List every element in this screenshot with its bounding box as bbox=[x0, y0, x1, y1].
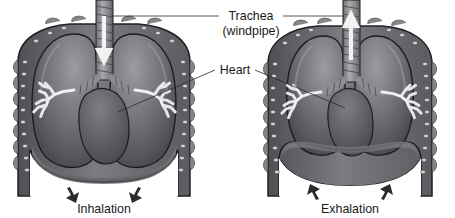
trachea-label: Trachea bbox=[229, 9, 274, 23]
inhalation-figure: Inhalation bbox=[14, 0, 195, 216]
illustration-canvas: Inhalation bbox=[0, 0, 455, 218]
windpipe-label: (windpipe) bbox=[222, 24, 279, 38]
heart-label: Heart bbox=[220, 63, 251, 77]
respiration-diagram: Inhalation bbox=[0, 0, 455, 218]
exhalation-figure: Exhalation bbox=[264, 0, 437, 216]
inhalation-label: Inhalation bbox=[77, 202, 131, 216]
exhalation-label: Exhalation bbox=[321, 202, 379, 216]
